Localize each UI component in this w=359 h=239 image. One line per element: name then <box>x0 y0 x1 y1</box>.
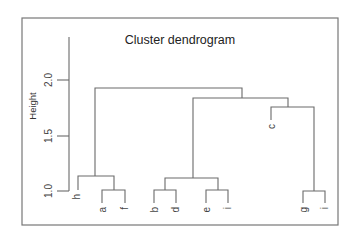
y-axis: 2.0 1.5 1.0 Height <box>27 37 69 198</box>
y-tick-1.5: 1.5 <box>43 129 54 143</box>
leaf-labels: h a f b d e i c g i <box>71 124 330 213</box>
leaf-label-g: g <box>298 207 309 213</box>
dendrogram-branches <box>78 88 325 203</box>
leaf-label-h: h <box>71 194 82 200</box>
chart-title: Cluster dendrogram <box>125 33 235 47</box>
leaf-label-e: e <box>201 207 212 213</box>
leaf-label-f: f <box>119 207 130 210</box>
leaf-label-a: a <box>97 207 108 213</box>
leaf-label-i2: i <box>319 207 330 209</box>
dendrogram-chart: Cluster dendrogram 2.0 1.5 1.0 Height h … <box>0 0 359 239</box>
y-axis-label: Height <box>27 92 38 120</box>
leaf-label-d: d <box>170 207 181 213</box>
y-tick-1.0: 1.0 <box>43 184 54 198</box>
leaf-label-c: c <box>266 124 277 129</box>
leaf-label-b: b <box>149 207 160 213</box>
leaf-label-i: i <box>222 207 233 209</box>
y-tick-2.0: 2.0 <box>43 73 54 87</box>
